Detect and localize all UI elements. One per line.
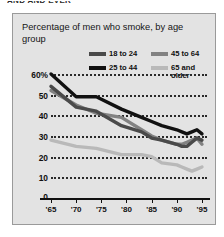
x-axis-label: '75 [96, 205, 107, 214]
chart-panel: Percentage of men who smoke, by age grou… [12, 13, 216, 225]
data-lines [51, 74, 207, 198]
x-axis-line [40, 198, 210, 200]
legend-item-18-to-24: 18 to 24 [89, 50, 145, 59]
x-axis-tick [126, 198, 127, 203]
x-axis-label: '95 [197, 205, 208, 214]
legend-swatch-45-to-64 [151, 52, 168, 56]
y-axis-label: 10 [39, 173, 48, 183]
x-axis-tick [152, 198, 153, 203]
legend-row: 18 to 24 45 to 64 [89, 50, 213, 59]
x-axis-label: '90 [171, 205, 182, 214]
x-axis-label: '70 [71, 205, 82, 214]
legend-item-45-to-64: 45 to 64 [151, 50, 207, 59]
y-axis-label: 0 [43, 192, 48, 202]
x-axis-tick [51, 198, 52, 203]
y-axis-label: 40 [39, 111, 48, 121]
x-axis-label: '65 [46, 205, 57, 214]
series-line-45-to-64 [51, 91, 202, 145]
plot-area: 60%50403020100 '65'70'75'80'85'90'95 [51, 74, 207, 198]
legend-swatch-25-to-44 [89, 66, 106, 70]
x-axis-tick [101, 198, 102, 203]
screenshot-root: AND AND EVER Percentage of men who smoke… [0, 0, 224, 237]
legend-label-18-to-24: 18 to 24 [109, 50, 137, 59]
x-axis-tick [202, 198, 203, 203]
chart-title: Percentage of men who smoke, by age grou… [22, 22, 208, 45]
legend-swatch-18-to-24 [89, 52, 106, 56]
clipped-headline-text: AND AND EVER [7, 0, 71, 5]
x-axis-label: '85 [146, 205, 157, 214]
y-axis-label: 30 [39, 132, 48, 142]
x-axis-tick [76, 198, 77, 203]
legend-label-45-to-64: 45 to 64 [171, 50, 199, 59]
x-axis-tick [177, 198, 178, 203]
y-axis-label: 20 [39, 152, 48, 162]
x-axis-label: '80 [121, 205, 132, 214]
legend-label-25-to-44: 25 to 44 [109, 64, 137, 73]
y-axis-label: 60% [31, 70, 48, 80]
y-axis-label: 50 [39, 90, 48, 100]
legend-swatch-65-and-older [151, 66, 168, 70]
